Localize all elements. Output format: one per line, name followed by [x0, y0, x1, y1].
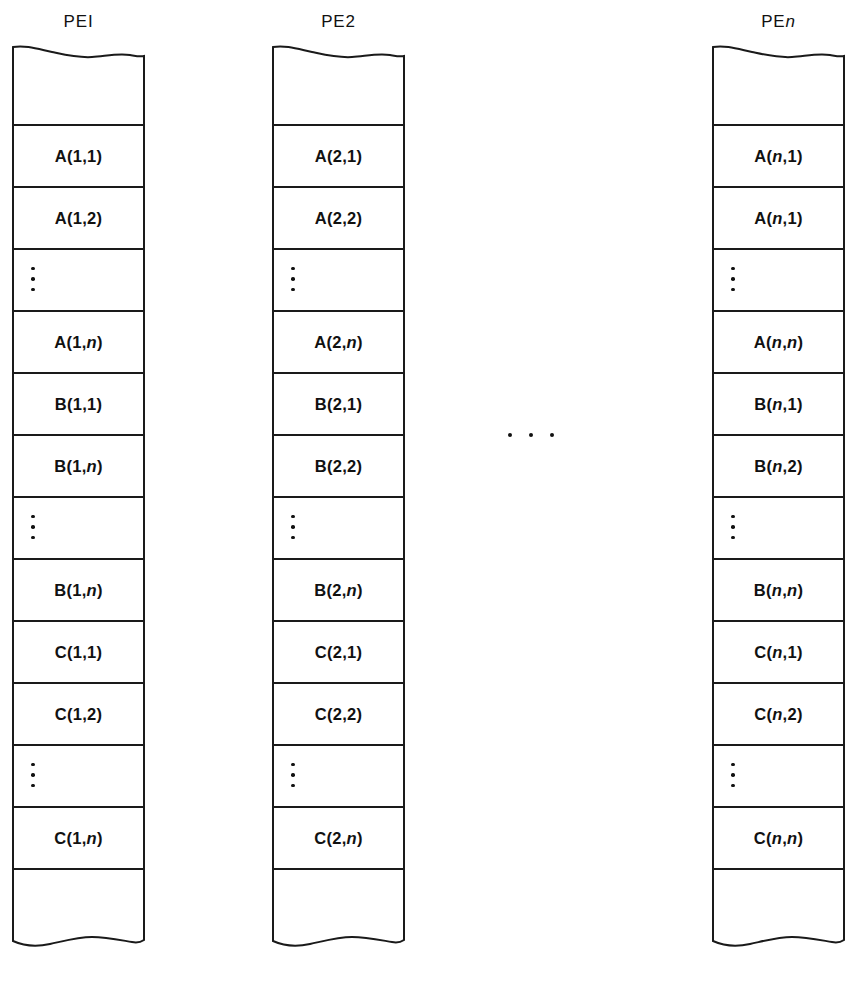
- index-char: ): [357, 829, 363, 847]
- memory-cell: C(n,n): [714, 806, 843, 868]
- index-n: n: [772, 829, 782, 847]
- cell-label: A(2,1): [315, 147, 363, 166]
- memory-cell-ellipsis: [714, 744, 843, 806]
- ellipsis-dot: [291, 784, 295, 788]
- cell-label: B(n,n): [754, 581, 803, 600]
- memory-cell-blank: [14, 868, 143, 930]
- memory-cell-blank: [14, 62, 143, 124]
- memory-cell-ellipsis: [274, 248, 403, 310]
- pe-column-pen: PEnA(n,1)A(n,1)A(n,n)B(n,1)B(n,2)B(n,n)C…: [712, 0, 845, 989]
- index-char: ): [357, 333, 363, 351]
- memory-cell: B(n,n): [714, 558, 843, 620]
- memory-cell: A(n,1): [714, 124, 843, 186]
- memory-cells-pe2: A(2,1)A(2,2)A(2,n)B(2,1)B(2,2)B(2,n)C(2,…: [272, 62, 405, 930]
- memory-cell: C(1,1): [14, 620, 143, 682]
- header-prefix: PE: [761, 12, 785, 31]
- index-char: 1: [72, 829, 81, 847]
- index-char: 1: [73, 395, 82, 413]
- cell-label-base: A: [55, 147, 67, 165]
- index-n: n: [347, 333, 357, 351]
- index-char: 1: [72, 333, 81, 351]
- torn-edge-bottom: [272, 930, 405, 948]
- index-char: ): [357, 457, 363, 475]
- cell-label: B(2,1): [315, 395, 363, 414]
- cell-label: A(n,1): [754, 209, 803, 228]
- memory-cell-ellipsis: [274, 496, 403, 558]
- cell-label: C(n,1): [754, 643, 803, 662]
- memory-cell: A(n,n): [714, 310, 843, 372]
- memory-cell: B(2,n): [274, 558, 403, 620]
- index-n: n: [347, 829, 357, 847]
- cell-label: A(2,2): [315, 209, 363, 228]
- ellipsis-dot: [291, 288, 295, 292]
- memory-cell: A(1,2): [14, 186, 143, 248]
- index-char: ): [97, 395, 103, 413]
- index-char: ): [797, 643, 803, 661]
- ellipsis-dot: [291, 515, 295, 519]
- memory-cell: C(2,1): [274, 620, 403, 682]
- index-char: 2: [87, 705, 96, 723]
- cell-label-base: A: [315, 147, 327, 165]
- memory-cell: A(2,1): [274, 124, 403, 186]
- cell-label-base: A: [315, 209, 327, 227]
- ellipsis-dot: [31, 267, 35, 271]
- memory-cell-blank: [714, 62, 843, 124]
- memory-cell: C(2,n): [274, 806, 403, 868]
- torn-edge-top: [12, 44, 145, 62]
- cell-label-base: A: [54, 333, 66, 351]
- cell-label: A(n,n): [754, 333, 803, 352]
- index-char: 2: [347, 457, 356, 475]
- cell-label-base: B: [54, 457, 66, 475]
- memory-cell: C(1,2): [14, 682, 143, 744]
- cell-label-base: B: [314, 581, 326, 599]
- index-n: n: [772, 209, 782, 227]
- memory-cell: B(2,1): [274, 372, 403, 434]
- ellipsis-dot: [31, 525, 35, 529]
- pe-column-header-pen: PEn: [712, 12, 845, 32]
- index-char: 2: [333, 643, 342, 661]
- index-char: 2: [788, 705, 797, 723]
- memory-cell-ellipsis: [714, 496, 843, 558]
- index-n: n: [87, 581, 97, 599]
- memory-cell: A(2,n): [274, 310, 403, 372]
- cell-label: C(n,2): [754, 705, 803, 724]
- cell-label: A(2,n): [314, 333, 363, 352]
- ellipsis-dot: [731, 536, 735, 540]
- index-char: ): [797, 705, 803, 723]
- memory-cell: A(1,n): [14, 310, 143, 372]
- memory-cell-ellipsis: [14, 496, 143, 558]
- cell-label-base: C: [54, 829, 66, 847]
- ellipsis-dot: [291, 773, 295, 777]
- ellipsis-dot: [550, 433, 554, 437]
- cell-label-base: A: [754, 209, 766, 227]
- cell-label-base: C: [754, 643, 766, 661]
- index-char: ): [797, 147, 803, 165]
- cell-label: C(n,n): [754, 829, 803, 848]
- index-char: ): [97, 209, 103, 227]
- index-char: ): [357, 581, 363, 599]
- ellipsis-dot: [731, 515, 735, 519]
- index-char: 1: [72, 581, 81, 599]
- index-n: n: [772, 705, 782, 723]
- cell-label: C(1,2): [55, 705, 103, 724]
- memory-cell: C(1,n): [14, 806, 143, 868]
- header-prefix: PE: [64, 12, 88, 31]
- memory-cell: B(1,n): [14, 558, 143, 620]
- index-char: 2: [347, 705, 356, 723]
- memory-strip-pe1: A(1,1)A(1,2)A(1,n)B(1,1)B(1,n)B(1,n)C(1,…: [12, 44, 145, 948]
- index-char: 2: [333, 209, 342, 227]
- cell-label-base: C: [754, 705, 766, 723]
- index-n: n: [347, 581, 357, 599]
- memory-strip-pe2: A(2,1)A(2,2)A(2,n)B(2,1)B(2,2)B(2,n)C(2,…: [272, 44, 405, 948]
- index-char: 1: [788, 643, 797, 661]
- index-n: n: [787, 829, 797, 847]
- index-char: ): [797, 457, 803, 475]
- cell-label: B(n,1): [754, 395, 803, 414]
- memory-cell: B(2,2): [274, 434, 403, 496]
- cell-label-base: A: [754, 333, 766, 351]
- vertical-ellipsis: [731, 763, 735, 788]
- vertical-ellipsis: [31, 763, 35, 788]
- memory-cell-blank: [274, 868, 403, 930]
- index-char: 1: [788, 395, 797, 413]
- ellipsis-dot: [731, 288, 735, 292]
